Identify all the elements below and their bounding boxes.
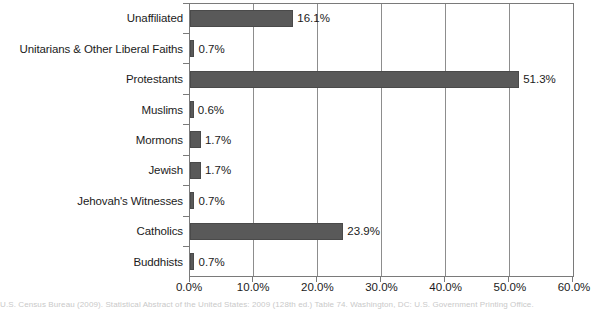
bar-value-label: 1.7% bbox=[205, 164, 231, 176]
bar-container: 0.7% bbox=[190, 186, 225, 216]
bar-row: Unitarians & Other Liberal Faiths0.7% bbox=[0, 33, 600, 63]
y-tick bbox=[183, 216, 189, 217]
bar-container: 0.7% bbox=[190, 33, 225, 63]
y-tick bbox=[183, 155, 189, 156]
bar-row: Jewish1.7% bbox=[0, 155, 600, 185]
y-tick bbox=[183, 3, 189, 4]
bar-row: Unaffiliated16.1% bbox=[0, 3, 600, 33]
bar-row: Protestants51.3% bbox=[0, 64, 600, 94]
bar-value-label: 0.6% bbox=[198, 104, 224, 116]
bar bbox=[190, 253, 194, 270]
bar-row: Mormons1.7% bbox=[0, 125, 600, 155]
bar-chart: Unaffiliated16.1%Unitarians & Other Libe… bbox=[0, 0, 600, 310]
bar-container: 51.3% bbox=[190, 64, 556, 94]
category-label: Jewish bbox=[0, 164, 183, 176]
category-label: Protestants bbox=[0, 73, 183, 85]
bar-container: 16.1% bbox=[190, 3, 330, 33]
y-tick bbox=[183, 63, 189, 64]
bar-row: Buddhists0.7% bbox=[0, 247, 600, 277]
x-tick-label: 30.0% bbox=[365, 281, 398, 293]
bar-value-label: 51.3% bbox=[523, 73, 556, 85]
bar bbox=[190, 40, 194, 57]
y-tick bbox=[183, 246, 189, 247]
bar-value-label: 0.7% bbox=[198, 43, 224, 55]
bar bbox=[190, 162, 201, 179]
bar bbox=[190, 192, 194, 209]
x-tick-labels: 0.0%10.0%20.0%30.0%40.0%50.0%60.0% bbox=[0, 281, 600, 297]
category-label: Jehovah's Witnesses bbox=[0, 195, 183, 207]
bar-container: 0.6% bbox=[190, 94, 224, 124]
x-tick-label: 0.0% bbox=[176, 281, 202, 293]
bar-rows: Unaffiliated16.1%Unitarians & Other Libe… bbox=[0, 3, 600, 277]
x-tick-label: 60.0% bbox=[558, 281, 591, 293]
category-label: Catholics bbox=[0, 225, 183, 237]
category-label: Buddhists bbox=[0, 256, 183, 268]
x-tick-label: 40.0% bbox=[429, 281, 462, 293]
x-tick-label: 50.0% bbox=[494, 281, 527, 293]
bar-container: 23.9% bbox=[190, 216, 380, 246]
bar-value-label: 0.7% bbox=[198, 256, 224, 268]
bar-container: 1.7% bbox=[190, 155, 231, 185]
bar-row: Catholics23.9% bbox=[0, 216, 600, 246]
bar-value-label: 23.9% bbox=[347, 225, 380, 237]
x-axis bbox=[189, 277, 574, 278]
bar-value-label: 0.7% bbox=[198, 195, 224, 207]
x-tick-label: 10.0% bbox=[237, 281, 270, 293]
category-label: Mormons bbox=[0, 134, 183, 146]
source-citation: U.S. Census Bureau (2009). Statistical A… bbox=[0, 300, 600, 309]
bar-row: Muslims0.6% bbox=[0, 94, 600, 124]
bar bbox=[190, 71, 519, 88]
bar bbox=[190, 101, 194, 118]
bar-container: 1.7% bbox=[190, 125, 231, 155]
bar bbox=[190, 131, 201, 148]
bar bbox=[190, 223, 343, 240]
bar-value-label: 1.7% bbox=[205, 134, 231, 146]
bar-container: 0.7% bbox=[190, 247, 225, 277]
bar-row: Jehovah's Witnesses0.7% bbox=[0, 186, 600, 216]
y-tick bbox=[183, 94, 189, 95]
y-tick bbox=[183, 185, 189, 186]
category-label: Muslims bbox=[0, 104, 183, 116]
y-tick bbox=[183, 124, 189, 125]
category-label: Unaffiliated bbox=[0, 12, 183, 24]
category-label: Unitarians & Other Liberal Faiths bbox=[0, 43, 183, 55]
y-tick bbox=[183, 33, 189, 34]
bar bbox=[190, 10, 293, 27]
bar-value-label: 16.1% bbox=[297, 12, 330, 24]
x-tick-label: 20.0% bbox=[301, 281, 334, 293]
